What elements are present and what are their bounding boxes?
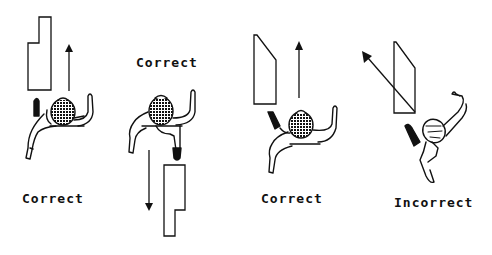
diagram-canvas: Correct Correct Correct Incorrect <box>0 0 492 255</box>
arrow-up-icon <box>65 44 73 91</box>
panel-3 <box>254 35 337 173</box>
arrow-up-icon <box>295 41 303 98</box>
person-figure-icon <box>26 94 93 159</box>
panel-4 <box>362 42 467 182</box>
object-outline-icon <box>254 35 276 104</box>
person-figure-icon <box>268 106 337 173</box>
diagram-drawing <box>0 0 492 255</box>
person-figure-icon <box>405 92 467 182</box>
panel-1 <box>26 17 93 159</box>
panel-2 <box>129 90 195 236</box>
panel-4-label: Incorrect <box>394 196 473 210</box>
panel-3-label: Correct <box>261 192 323 206</box>
panel-2-label: Correct <box>136 56 198 70</box>
arrow-down-icon <box>145 150 153 211</box>
object-outline-icon <box>394 42 415 113</box>
object-outline-icon <box>164 165 185 236</box>
object-outline-icon <box>28 17 51 90</box>
arrow-diagonal-icon <box>362 51 415 112</box>
panel-1-label: Correct <box>22 192 84 206</box>
person-figure-icon <box>129 90 195 160</box>
